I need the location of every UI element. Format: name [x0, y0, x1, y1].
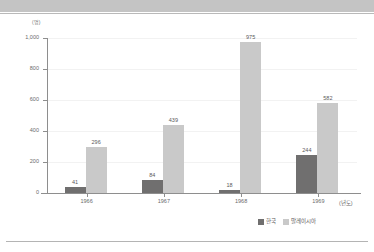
legend-swatch	[283, 219, 289, 225]
chart-legend: 한국말레이시아	[258, 219, 316, 225]
bar-value-label: 439	[157, 118, 190, 124]
legend-label: 한국	[266, 219, 276, 225]
bar-korea-1967	[142, 180, 163, 193]
x-tick-label-1969: 1969	[298, 199, 338, 205]
plot-area: 412968443918975244582	[47, 38, 357, 193]
y-tick-label: 0	[36, 190, 39, 196]
x-axis-unit-label: (년도)	[339, 199, 353, 207]
y-tick-mark	[43, 193, 48, 194]
top-grey-band	[0, 0, 374, 12]
y-tick-label: 800	[30, 66, 39, 72]
bar-malaysia-1968	[240, 42, 261, 193]
top-divider-rule	[0, 13, 374, 14]
x-tick-mark	[318, 194, 319, 197]
bar-malaysia-1969	[317, 103, 338, 193]
y-axis-unit-label: (명)	[32, 18, 40, 25]
x-tick-label-1966: 1966	[67, 199, 107, 205]
y-tick-label: 600	[30, 97, 39, 103]
bar-malaysia-1967	[163, 125, 184, 193]
legend-entry: 한국	[258, 219, 276, 225]
bottom-divider-rule	[6, 241, 368, 242]
x-axis-line	[41, 193, 361, 194]
bar-value-label: 296	[80, 140, 113, 146]
bar-value-label: 582	[311, 96, 344, 102]
bar-korea-1969	[296, 155, 317, 193]
x-tick-mark	[241, 194, 242, 197]
x-tick-mark	[87, 194, 88, 197]
y-tick-label: 400	[30, 128, 39, 134]
bar-korea-1966	[65, 187, 86, 193]
legend-swatch	[258, 219, 264, 225]
y-tick-label: 1,000	[25, 35, 39, 41]
bar-chart: (명) 1,0008006004002000 41296844391897524…	[0, 16, 374, 238]
bar-value-label: 975	[234, 35, 267, 41]
y-tick-label: 200	[30, 159, 39, 165]
x-tick-mark	[164, 194, 165, 197]
bar-korea-1968	[219, 190, 240, 193]
x-tick-label-1967: 1967	[144, 199, 184, 205]
x-tick-label-1968: 1968	[221, 199, 261, 205]
legend-label: 말레이시아	[291, 219, 316, 225]
bar-malaysia-1966	[86, 147, 107, 193]
legend-entry: 말레이시아	[283, 219, 316, 225]
